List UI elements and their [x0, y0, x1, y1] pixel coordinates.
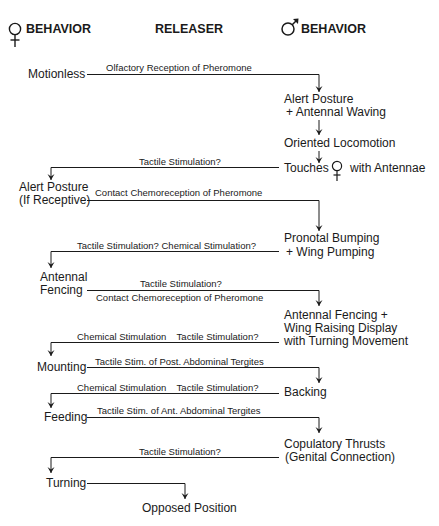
releaser-post-abdominal: Tactile Stim. of Post. Abdominal Tergite… — [95, 357, 264, 367]
releaser-ant-abdominal: Tactile Stim. of Ant. Abdominal Tergites — [97, 406, 261, 416]
releaser-chemical-tactile-2: Chemical Stimulation Tactile Stimulation… — [77, 383, 258, 393]
releaser-tactile-chemical: Tactile Stimulation? Chemical Stimulatio… — [77, 241, 256, 251]
female-behavior-feeding: Feeding — [44, 411, 87, 423]
arrow-touches-to-female-alert — [51, 168, 279, 181]
female-behavior-if-receptive: (If Receptive) — [19, 194, 90, 206]
releaser-contact-chemoreception-2: Contact Chemoreception of Pheromone — [96, 293, 263, 303]
male-behavior-wing-pumping: + Wing Pumping — [286, 246, 374, 258]
arrow-mounting-to-backing — [87, 368, 319, 384]
releaser-chemical-tactile-1: Chemical Stimulation Tactile Stimulation… — [77, 332, 258, 342]
arrow-turning-to-opposed — [87, 484, 185, 500]
male-behavior-oriented-locomotion: Oriented Locomotion — [284, 137, 395, 149]
female-behavior-motionless: Motionless — [28, 68, 85, 80]
outcome-opposed-position: Opposed Position — [142, 502, 237, 514]
male-behavior-backing: Backing — [284, 386, 327, 398]
arrow-receptive-to-pronotal — [87, 201, 319, 232]
male-behavior-touches: Touches — [284, 162, 329, 174]
releaser-olfactory: Olfactory Reception of Pheromone — [106, 63, 252, 73]
male-behavior-with-antennae: with Antennae — [350, 162, 425, 174]
releaser-tactile-3: Tactile Stimulation? — [139, 447, 221, 457]
female-behavior-alert-posture: Alert Posture — [19, 181, 88, 193]
female-behavior-turning: Turning — [46, 477, 86, 489]
female-symbol-inline-icon — [331, 160, 345, 182]
arrow-feeding-to-copulatory — [87, 418, 319, 434]
arrow-pronotal-to-fencing — [51, 252, 279, 269]
male-behavior-genital-connection: (Genital Connection) — [285, 451, 395, 463]
male-behavior-header: BEHAVIOR — [301, 23, 366, 36]
female-behavior-fencing: Fencing — [40, 284, 83, 296]
male-behavior-copulatory-thrusts: Copulatory Thrusts — [284, 438, 385, 450]
male-behavior-antennal-waving: + Antennal Waving — [286, 106, 386, 118]
male-behavior-turning-movement: with Turning Movement — [284, 335, 408, 347]
female-behavior-antennal: Antennal — [40, 271, 87, 283]
releaser-tactile-2: Tactile Stimulation? — [140, 279, 222, 289]
male-behavior-antennal-fencing: Antennal Fencing + — [284, 309, 388, 321]
male-behavior-pronotal-bumping: Pronotal Bumping — [284, 232, 379, 244]
releaser-contact-chemoreception-1: Contact Chemoreception of Pheromone — [95, 188, 262, 198]
male-behavior-alert-posture: Alert Posture — [284, 93, 353, 105]
releaser-tactile-1: Tactile Stimulation? — [139, 157, 221, 167]
male-behavior-wing-raising: Wing Raising Display — [284, 322, 397, 334]
female-behavior-mounting: Mounting — [37, 361, 86, 373]
female-symbol-icon — [8, 22, 24, 48]
arrow-motionless-to-alert — [87, 75, 319, 93]
releaser-header: RELEASER — [155, 23, 223, 36]
arrow-copulatory-to-turning — [51, 458, 279, 474]
female-behavior-header: BEHAVIOR — [26, 23, 91, 36]
arrow-display-to-mounting — [51, 343, 279, 357]
male-symbol-icon — [280, 17, 300, 37]
